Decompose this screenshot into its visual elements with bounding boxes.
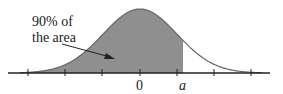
tick-label-a: a	[179, 78, 186, 93]
annotation-line1: 90% of	[32, 14, 73, 29]
normal-curve-diagram: 0 a 90% of the area	[0, 0, 283, 94]
annotation-line2: the area	[32, 30, 77, 45]
tick-label-zero: 0	[136, 78, 143, 93]
